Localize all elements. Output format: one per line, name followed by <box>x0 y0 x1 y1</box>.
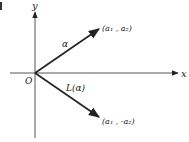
alpha-label: α <box>62 39 68 49</box>
alpha-endpoint-label: (a₁ , a₂) <box>102 24 132 33</box>
origin-label: O <box>25 76 33 86</box>
x-axis-label: x <box>181 68 187 79</box>
y-axis-label: y <box>31 0 38 11</box>
y-axis: y <box>31 0 38 138</box>
vector-diagram: y x O α (a₁ , a₂) L(α) (a₁ , -a₂) <box>0 0 189 142</box>
vector-alpha: α (a₁ , a₂) <box>35 24 132 73</box>
l-alpha-label: L(α) <box>65 83 86 93</box>
l-alpha-endpoint-label: (a₁ , -a₂) <box>102 117 135 126</box>
vector-l-alpha: L(α) (a₁ , -a₂) <box>35 73 135 126</box>
